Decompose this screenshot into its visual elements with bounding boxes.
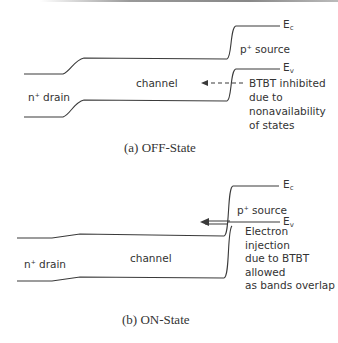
off-channel-label: channel bbox=[136, 77, 178, 90]
annotation-line: of states bbox=[249, 118, 326, 132]
off-ec-label: Ec bbox=[283, 18, 294, 35]
on-source-label: p+ source bbox=[237, 201, 287, 217]
band-diagram-figure: Ec p+ source Ev channel n+ drain BTBT in… bbox=[0, 0, 338, 343]
ec-sub: c bbox=[290, 184, 294, 192]
drain-text: drain bbox=[40, 91, 70, 103]
annotation-line: as bands overlap bbox=[245, 279, 335, 293]
source-text: source bbox=[249, 204, 287, 216]
annotation-line: due to BTBT bbox=[245, 252, 335, 266]
on-state-caption: (b) ON-State bbox=[122, 312, 190, 328]
off-source-label: p+ source bbox=[240, 40, 290, 56]
annotation-line: allowed bbox=[245, 266, 335, 280]
n-text: n bbox=[24, 258, 31, 270]
p-text: p bbox=[237, 204, 244, 216]
on-arrowhead-icon bbox=[200, 218, 209, 226]
on-annotation: Electron injection due to BTBT allowed a… bbox=[245, 225, 335, 293]
off-annotation: BTBT inhibited due to nonavailability of… bbox=[249, 76, 326, 132]
annotation-line: BTBT inhibited bbox=[249, 76, 326, 90]
ec-text: E bbox=[283, 18, 290, 30]
on-ec-label: Ec bbox=[283, 178, 294, 195]
n-text: n bbox=[28, 91, 35, 103]
off-arrowhead-icon bbox=[201, 80, 208, 86]
on-channel-label: channel bbox=[130, 252, 172, 265]
ec-sub: c bbox=[290, 24, 294, 32]
off-state-caption: (a) OFF-State bbox=[124, 140, 196, 156]
source-text: source bbox=[252, 43, 290, 55]
ev-text: E bbox=[283, 61, 290, 73]
drain-text: drain bbox=[36, 258, 66, 270]
annotation-line: Electron bbox=[245, 225, 335, 239]
on-drain-label: n+ drain bbox=[24, 255, 66, 271]
ec-text: E bbox=[283, 178, 290, 190]
ev-sub: v bbox=[290, 67, 294, 75]
annotation-line: due to bbox=[249, 90, 326, 104]
off-drain-label: n+ drain bbox=[28, 88, 70, 104]
annotation-line: nonavailability bbox=[249, 104, 326, 118]
annotation-line: injection bbox=[245, 239, 335, 253]
p-text: p bbox=[240, 43, 247, 55]
